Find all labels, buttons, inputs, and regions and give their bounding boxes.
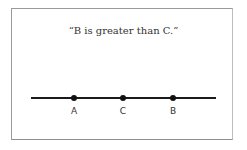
statement-text: “B is greater than C.” — [0, 25, 247, 36]
point-c-label: C — [117, 106, 129, 116]
point-a-label: A — [68, 106, 80, 116]
point-a-dot — [71, 95, 77, 101]
point-b-label: B — [167, 106, 179, 116]
point-c-dot — [120, 95, 126, 101]
point-b-dot — [170, 95, 176, 101]
